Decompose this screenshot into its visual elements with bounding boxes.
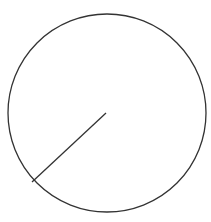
circle-outline — [8, 14, 206, 212]
radius-line — [32, 113, 106, 182]
circle-diagram — [0, 0, 211, 222]
